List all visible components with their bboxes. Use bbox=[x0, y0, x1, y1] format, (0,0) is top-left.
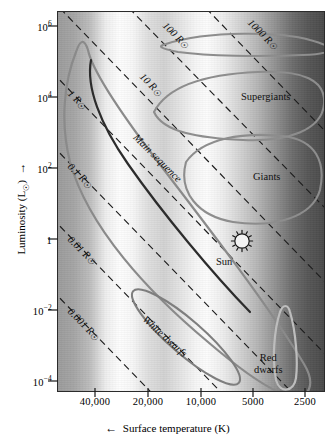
sun-icon bbox=[231, 230, 252, 251]
y-axis-title-text: Luminosity (L bbox=[15, 191, 27, 255]
x-tick-20000: 20,000 bbox=[133, 396, 164, 407]
solar-symbol-y: ☉ bbox=[22, 184, 31, 191]
x-axis-ticks bbox=[0, 386, 335, 400]
sun-label: Sun bbox=[216, 256, 232, 268]
region-label-supergiants: Supergiants bbox=[241, 91, 290, 103]
plot-area: 1000 R☉ 100 R☉ 10 R☉ 1 R☉ 0.1 R☉ 0.01 R☉… bbox=[57, 11, 325, 392]
red-dwarfs-line2: dwarfs bbox=[254, 364, 283, 375]
y-axis-title-close: ) bbox=[15, 180, 27, 184]
red-dwarfs-line1: Red bbox=[260, 352, 277, 363]
hr-diagram-figure: 1000 R☉ 100 R☉ 10 R☉ 1 R☉ 0.1 R☉ 0.01 R☉… bbox=[0, 0, 335, 448]
region-label-red-dwarfs: Red dwarfs bbox=[254, 352, 283, 376]
y-axis-arrow-icon: → bbox=[15, 163, 27, 175]
y-axis-title: Luminosity (L☉) → bbox=[15, 134, 30, 284]
x-tick-10000: 10,000 bbox=[186, 396, 217, 407]
x-tick-2500: 2500 bbox=[294, 396, 316, 407]
x-tick-40000: 40,000 bbox=[80, 396, 111, 407]
region-label-giants: Giants bbox=[253, 171, 280, 183]
x-axis-title-text: Surface temperature (K) bbox=[123, 422, 230, 434]
x-axis-title: ← Surface temperature (K) bbox=[0, 422, 335, 434]
x-tick-5000: 5000 bbox=[242, 396, 264, 407]
x-axis-arrow-icon: ← bbox=[105, 422, 117, 434]
